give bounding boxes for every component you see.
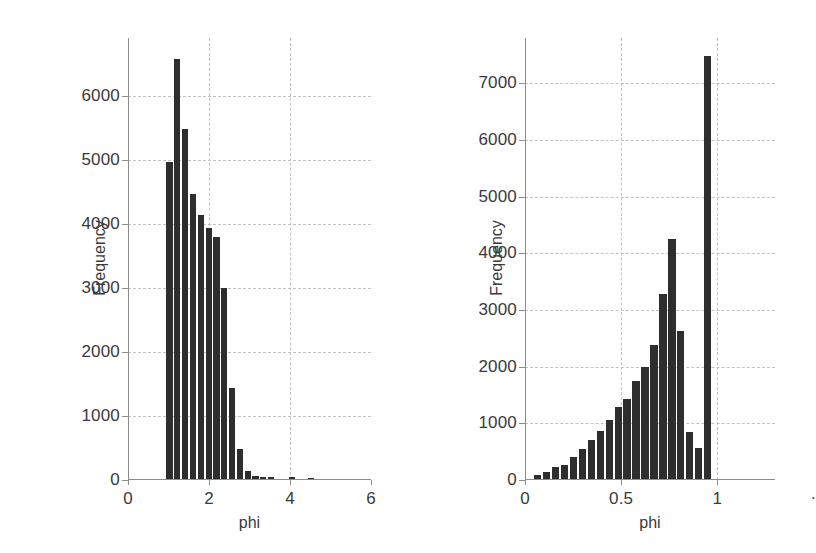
histogram-bar xyxy=(615,407,622,480)
y-tick-label: 0 xyxy=(110,470,120,490)
y-tick-label: 6000 xyxy=(478,130,517,150)
y-axis-line-right xyxy=(525,38,526,480)
histogram-bar xyxy=(659,294,666,480)
x-tick-label: 6 xyxy=(366,489,376,509)
x-tick-label: 0 xyxy=(123,489,133,509)
y-tick-label: 1000 xyxy=(81,406,120,426)
y-tick-mark xyxy=(122,352,128,353)
histogram-bar xyxy=(668,239,675,480)
y-tick-mark xyxy=(122,160,128,161)
histogram-panel-right: Frequency 01000200030004000500060007000 … xyxy=(407,0,813,553)
histogram-bar xyxy=(650,345,657,480)
x-tick-label: 2 xyxy=(204,489,214,509)
y-tick-mark xyxy=(519,367,525,368)
histogram-bar xyxy=(588,440,595,480)
histogram-bar xyxy=(174,59,180,480)
x-tick-mark xyxy=(717,480,718,485)
x-axis-line-right xyxy=(525,479,775,480)
x-axis-title-left: phi xyxy=(239,514,260,532)
histogram-bar xyxy=(704,56,711,480)
histogram-bar xyxy=(198,215,204,480)
bars-left xyxy=(128,38,371,480)
y-tick-mark xyxy=(519,253,525,254)
x-tick-mark xyxy=(209,480,210,485)
y-tick-label: 0 xyxy=(507,470,517,490)
x-tick-label: 0 xyxy=(520,489,530,509)
histogram-bar xyxy=(561,465,568,480)
plot-area-left: 0100020003000400050006000 0246 phi xyxy=(128,38,371,480)
y-tick-label: 5000 xyxy=(81,150,120,170)
y-tick-label: 4000 xyxy=(478,243,517,263)
y-tick-label: 5000 xyxy=(478,187,517,207)
y-tick-label: 1000 xyxy=(478,413,517,433)
y-tick-mark xyxy=(122,224,128,225)
histogram-bar xyxy=(641,367,648,480)
histogram-bar xyxy=(623,399,630,480)
y-tick-label: 6000 xyxy=(81,86,120,106)
histogram-bar xyxy=(237,449,243,480)
x-axis-title-right: phi xyxy=(639,514,660,532)
y-tick-mark xyxy=(519,140,525,141)
y-axis-line-left xyxy=(128,38,129,480)
x-axis-minor-tick-right: . xyxy=(811,484,816,504)
y-tick-label: 3000 xyxy=(478,300,517,320)
histogram-bar xyxy=(597,431,604,480)
y-tick-mark xyxy=(519,310,525,311)
y-tick-label: 2000 xyxy=(478,357,517,377)
x-tick-mark xyxy=(128,480,129,485)
y-tick-label: 7000 xyxy=(478,73,517,93)
histogram-bar xyxy=(229,388,235,480)
histogram-bar xyxy=(206,228,212,480)
y-tick-mark xyxy=(122,416,128,417)
y-tick-mark xyxy=(519,197,525,198)
histogram-bar xyxy=(632,381,639,480)
histogram-bar xyxy=(182,129,188,480)
x-tick-label: 4 xyxy=(285,489,295,509)
bars-right xyxy=(525,38,775,480)
y-tick-mark xyxy=(122,96,128,97)
histogram-bar xyxy=(606,420,613,480)
x-axis-line-left xyxy=(128,479,371,480)
y-tick-mark xyxy=(122,288,128,289)
plot-area-right: 01000200030004000500060007000 00.51 phi … xyxy=(525,38,775,480)
x-tick-mark xyxy=(525,480,526,485)
histogram-bar xyxy=(570,457,577,480)
x-tick-mark xyxy=(290,480,291,485)
histogram-bar xyxy=(677,331,684,480)
y-tick-label: 3000 xyxy=(81,278,120,298)
x-tick-label: 1 xyxy=(712,489,722,509)
x-tick-mark xyxy=(621,480,622,485)
histogram-bar xyxy=(686,432,693,480)
x-tick-label: 0.5 xyxy=(609,489,633,509)
histogram-bar xyxy=(579,449,586,480)
histogram-panel-left: Frequency 0100020003000400050006000 0246… xyxy=(0,0,406,553)
y-tick-mark xyxy=(519,423,525,424)
histogram-bar xyxy=(190,194,196,480)
histogram-bar xyxy=(166,162,172,480)
histogram-bar xyxy=(213,237,219,480)
x-tick-mark xyxy=(371,480,372,485)
histogram-bar xyxy=(695,448,702,480)
y-tick-label: 4000 xyxy=(81,214,120,234)
y-tick-label: 2000 xyxy=(81,342,120,362)
y-tick-mark xyxy=(519,83,525,84)
histogram-bar xyxy=(221,288,227,480)
